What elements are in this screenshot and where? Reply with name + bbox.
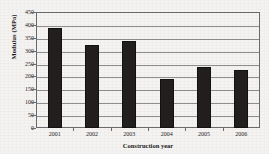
x-axis-title: Construction year: [36, 142, 260, 149]
chart-screenshot: Modulus (MPa) 05010015020025030035040045…: [0, 0, 269, 154]
x-axis-tick-labels: 200120022003200420052006: [36, 131, 260, 137]
bar-series: [36, 12, 260, 128]
bar-slot: [36, 12, 73, 128]
x-axis-tick-label: 2006: [223, 131, 260, 137]
bar: [85, 45, 99, 128]
x-axis-tick-label: 2002: [73, 131, 110, 137]
bar: [197, 67, 211, 128]
bar-slot: [111, 12, 148, 128]
bar-slot: [223, 12, 260, 128]
x-axis-tick-label: 2003: [111, 131, 148, 137]
x-axis-tick-label: 2005: [185, 131, 222, 137]
bar: [234, 70, 248, 128]
bar: [122, 41, 136, 128]
bar-slot: [73, 12, 110, 128]
x-axis-tick-label: 2004: [148, 131, 185, 137]
bar-slot: [185, 12, 222, 128]
bar-slot: [148, 12, 185, 128]
bar: [48, 28, 62, 128]
bar: [160, 79, 174, 128]
x-axis-tick-label: 2001: [36, 131, 73, 137]
